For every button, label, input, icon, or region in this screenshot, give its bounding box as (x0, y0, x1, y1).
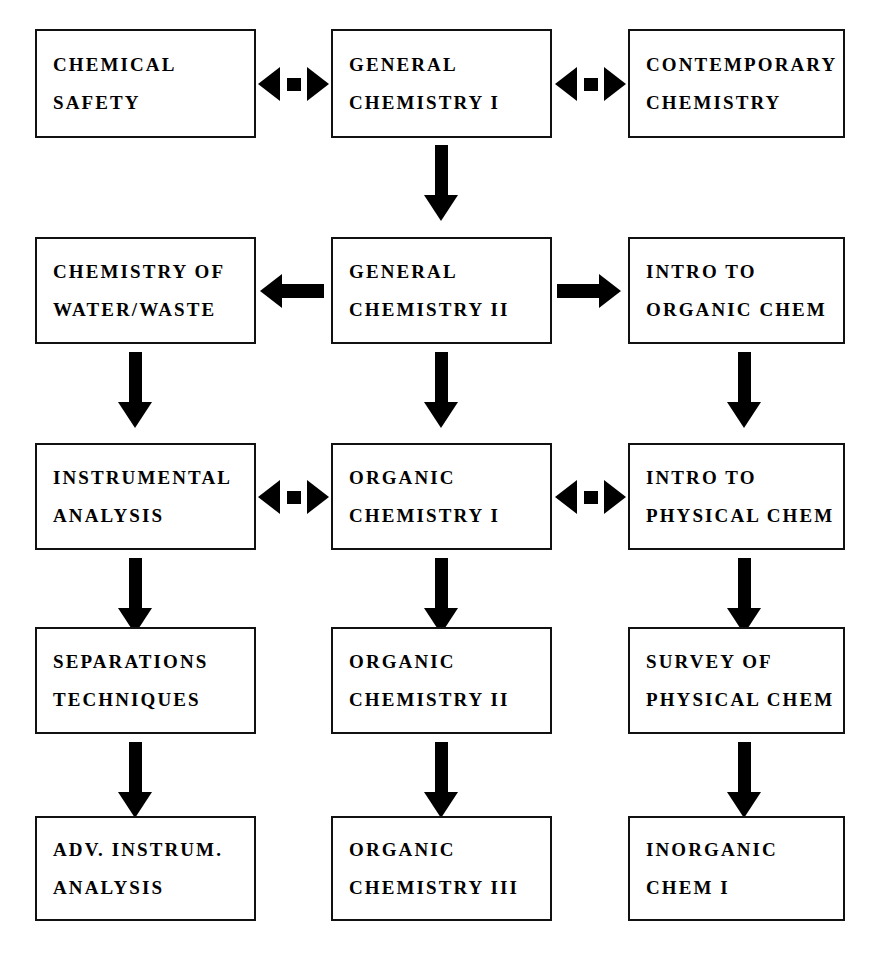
connector-right-genchem2-introorganic (557, 274, 625, 308)
chemistry-course-flowchart: CHEMICAL SAFETY GENERAL CHEMISTRY I CONT… (0, 0, 879, 958)
course-label-line1: INTRO TO (646, 253, 757, 290)
arrow-stem (129, 742, 142, 792)
connector-down-introorganic-introphysical (727, 352, 761, 428)
connector-down-instrumental-separations (118, 558, 152, 634)
arrow-stem (435, 352, 448, 402)
course-label-line1: CHEMISTRY OF (53, 253, 225, 290)
connector-bidirectional-safety-genchem1 (258, 67, 329, 101)
course-box-survey-of-physical-chem[interactable]: SURVEY OF PHYSICAL CHEM (628, 627, 845, 734)
arrow-left-head-icon (260, 274, 282, 308)
connector-bidirectional-genchem1-contemporary (555, 67, 626, 101)
course-label-line2: PHYSICAL CHEM (646, 681, 834, 718)
arrow-right-head-icon (599, 274, 621, 308)
connector-bidirectional-organic1-introphysical (555, 480, 626, 514)
connector-bidirectional-instrumental-organic1 (258, 480, 329, 514)
arrow-down-head-icon (424, 195, 458, 221)
course-box-instrumental-analysis[interactable]: INSTRUMENTAL ANALYSIS (35, 443, 256, 550)
course-box-intro-to-physical-chem[interactable]: INTRO TO PHYSICAL CHEM (628, 443, 845, 550)
course-box-organic-chemistry-ii[interactable]: ORGANIC CHEMISTRY II (331, 627, 552, 734)
course-box-intro-to-organic-chem[interactable]: INTRO TO ORGANIC CHEM (628, 237, 845, 344)
connector-down-surveyphysical-inorganic1 (727, 742, 761, 818)
arrow-left-head-icon (555, 67, 577, 101)
arrow-down-head-icon (118, 792, 152, 818)
arrow-stem (738, 558, 751, 608)
arrow-down-head-icon (424, 402, 458, 428)
course-label-line2: CHEMISTRY (646, 84, 781, 121)
arrow-tail-bar (282, 284, 324, 298)
arrow-stem (129, 558, 142, 608)
course-box-separations-techniques[interactable]: SEPARATIONS TECHNIQUES (35, 627, 256, 734)
course-label-line2: WATER/WASTE (53, 291, 216, 328)
arrow-right-head-icon (307, 67, 329, 101)
course-label-line1: GENERAL (349, 46, 458, 83)
arrow-down-head-icon (727, 402, 761, 428)
course-label-line2: CHEM I (646, 869, 730, 906)
course-label-line2: CHEMISTRY I (349, 84, 500, 121)
course-label-line1: INORGANIC (646, 831, 778, 868)
arrow-middle-bar (584, 491, 598, 504)
connector-down-genchem1-genchem2 (424, 145, 458, 221)
course-label-line2: SAFETY (53, 84, 141, 121)
arrow-stem (129, 352, 142, 402)
arrow-down-head-icon (424, 792, 458, 818)
course-label-line2: ANALYSIS (53, 869, 164, 906)
connector-down-genchem2-organic1 (424, 352, 458, 428)
arrow-right-head-icon (604, 67, 626, 101)
arrow-stem (435, 742, 448, 792)
course-label-line1: SEPARATIONS (53, 643, 208, 680)
course-box-chemical-safety[interactable]: CHEMICAL SAFETY (35, 29, 256, 138)
course-label-line1: CONTEMPORARY (646, 46, 837, 83)
course-box-chemistry-of-water-waste[interactable]: CHEMISTRY OF WATER/WASTE (35, 237, 256, 344)
course-box-organic-chemistry-i[interactable]: ORGANIC CHEMISTRY I (331, 443, 552, 550)
arrow-stem (738, 742, 751, 792)
arrow-tail-bar (557, 284, 599, 298)
course-box-contemporary-chemistry[interactable]: CONTEMPORARY CHEMISTRY (628, 29, 845, 138)
course-box-general-chemistry-ii[interactable]: GENERAL CHEMISTRY II (331, 237, 552, 344)
course-label-line1: ORGANIC (349, 459, 456, 496)
connector-down-introphysical-surveyphysical (727, 558, 761, 634)
arrow-left-head-icon (258, 67, 280, 101)
connector-down-organic1-organic2 (424, 558, 458, 634)
connector-down-separations-advinstrum (118, 742, 152, 818)
course-label-line2: ANALYSIS (53, 497, 164, 534)
connector-down-organic2-organic3 (424, 742, 458, 818)
course-label-line1: INTRO TO (646, 459, 757, 496)
arrow-right-head-icon (604, 480, 626, 514)
arrow-stem (435, 145, 448, 195)
arrow-middle-bar (584, 78, 598, 91)
arrow-middle-bar (287, 78, 301, 91)
course-label-line2: TECHNIQUES (53, 681, 201, 718)
course-label-line1: SURVEY OF (646, 643, 773, 680)
arrow-down-head-icon (118, 402, 152, 428)
course-label-line1: INSTRUMENTAL (53, 459, 232, 496)
course-label-line1: ORGANIC (349, 643, 456, 680)
course-label-line1: CHEMICAL (53, 46, 176, 83)
arrow-middle-bar (287, 491, 301, 504)
arrow-left-head-icon (258, 480, 280, 514)
course-label-line2: CHEMISTRY II (349, 681, 510, 718)
course-box-inorganic-chem-i[interactable]: INORGANIC CHEM I (628, 816, 845, 921)
course-box-organic-chemistry-iii[interactable]: ORGANIC CHEMISTRY III (331, 816, 552, 921)
course-label-line1: ADV. INSTRUM. (53, 831, 223, 868)
arrow-left-head-icon (555, 480, 577, 514)
course-label-line1: ORGANIC (349, 831, 456, 868)
arrow-down-head-icon (727, 792, 761, 818)
course-label-line2: PHYSICAL CHEM (646, 497, 834, 534)
course-label-line2: CHEMISTRY I (349, 497, 500, 534)
course-box-adv-instrum-analysis[interactable]: ADV. INSTRUM. ANALYSIS (35, 816, 256, 921)
course-label-line2: CHEMISTRY II (349, 291, 510, 328)
course-label-line2: ORGANIC CHEM (646, 291, 827, 328)
connector-left-genchem2-waterwaste (260, 274, 328, 308)
arrow-stem (435, 558, 448, 608)
arrow-stem (738, 352, 751, 402)
course-label-line1: GENERAL (349, 253, 458, 290)
arrow-right-head-icon (307, 480, 329, 514)
connector-down-waterwaste-instrumental (118, 352, 152, 428)
course-label-line2: CHEMISTRY III (349, 869, 519, 906)
course-box-general-chemistry-i[interactable]: GENERAL CHEMISTRY I (331, 29, 552, 138)
